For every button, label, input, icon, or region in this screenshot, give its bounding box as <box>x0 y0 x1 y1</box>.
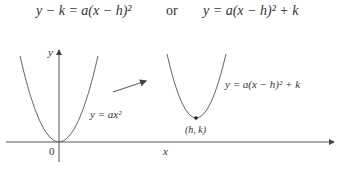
x-axis-label: x <box>162 145 168 157</box>
standard-parabola-label: y = ax² <box>89 108 122 120</box>
shifted-parabola-label: y = a(x − h)² + k <box>224 78 301 91</box>
parabola-diagram: y 0 x y = ax² y = a(x − h)² + k (h, k) <box>0 0 347 173</box>
shifted-parabola-curve <box>167 54 226 118</box>
y-axis-label: y <box>47 46 53 58</box>
origin-label: 0 <box>49 145 55 157</box>
vertex-label: (h, k) <box>185 124 207 136</box>
vertex-point <box>194 116 198 120</box>
shift-arrow-icon <box>113 81 146 92</box>
